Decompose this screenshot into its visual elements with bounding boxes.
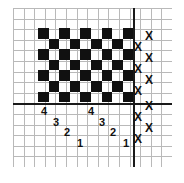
grid-line-vertical [24,8,25,167]
checker-square-empty [59,81,70,92]
checker-square-filled [123,49,134,60]
checker-square-filled [123,28,134,39]
checker-square-empty [70,28,81,39]
digit-label: 2 [110,127,116,138]
checker-square-filled [59,92,70,103]
grid-line-vertical [161,8,162,167]
checker-square-empty [59,60,70,71]
checker-square-empty [49,92,60,103]
grid-line-horizontal [13,8,172,9]
checker-square-empty [123,60,134,71]
checker-square-empty [80,81,91,92]
checker-square-filled [91,39,102,50]
grid-line-vertical [13,8,14,167]
grid-line-horizontal [13,146,172,147]
checker-square-filled [102,49,113,60]
checker-square-filled [102,70,113,81]
x-mark: X [145,30,153,42]
checker-square-empty [59,39,70,50]
checker-square-empty [102,81,113,92]
checker-square-filled [38,70,49,81]
checker-square-empty [112,92,123,103]
digit-label: 4 [88,106,94,117]
x-mark: X [145,122,153,134]
checker-square-filled [80,28,91,39]
checker-square-filled [59,70,70,81]
checker-square-empty [102,60,113,71]
checker-square-empty [123,81,134,92]
checker-square-filled [91,60,102,71]
checker-square-empty [112,28,123,39]
checker-square-empty [91,70,102,81]
checker-square-filled [112,60,123,71]
checker-square-empty [49,49,60,60]
checker-square-filled [102,28,113,39]
checker-square-filled [38,28,49,39]
checker-square-empty [70,49,81,60]
checker-square-filled [123,70,134,81]
digit-label: 2 [64,127,70,138]
digit-label: 3 [99,117,105,128]
grid-line-vertical [34,8,35,167]
checker-square-empty [112,49,123,60]
checker-square-filled [49,81,60,92]
checker-square-filled [80,92,91,103]
checker-square-filled [102,92,113,103]
x-mark: X [134,63,142,75]
checker-square-filled [112,81,123,92]
checker-square-empty [112,70,123,81]
checker-square-empty [91,92,102,103]
checker-square-filled [123,92,134,103]
checker-square-empty [38,60,49,71]
figure-canvas: XXXXXXXXXX 43214321 [0,0,184,183]
checker-square-empty [38,81,49,92]
checker-square-filled [38,92,49,103]
checker-square-empty [70,70,81,81]
checker-square-filled [80,70,91,81]
checker-square-empty [49,28,60,39]
grid-line-horizontal [13,135,172,136]
x-mark: X [145,74,153,86]
digit-label: 3 [53,117,59,128]
checker-square-filled [112,39,123,50]
digit-label: 1 [77,138,83,149]
checker-square-empty [49,70,60,81]
x-mark: X [134,111,142,123]
digit-label: 4 [41,106,47,117]
checker-square-filled [38,49,49,60]
checker-square-filled [70,39,81,50]
x-mark: X [134,41,142,53]
checker-square-filled [91,81,102,92]
checker-square-empty [102,39,113,50]
checker-square-filled [80,49,91,60]
checker-square-filled [70,60,81,71]
checker-square-empty [80,39,91,50]
checker-square-empty [91,28,102,39]
checker-square-empty [70,92,81,103]
digit-label: 1 [123,138,129,149]
x-mark: X [145,100,153,112]
x-mark: X [134,133,142,145]
checker-square-empty [91,49,102,60]
checker-square-filled [49,60,60,71]
checker-square-filled [49,39,60,50]
grid-line-horizontal [13,19,172,20]
grid-line-horizontal [13,156,172,157]
checker-square-empty [123,39,134,50]
checker-square-empty [38,39,49,50]
checkerboard-region [38,28,133,102]
checker-square-empty [80,60,91,71]
checker-square-filled [59,49,70,60]
x-mark: X [134,85,142,97]
checker-square-filled [59,28,70,39]
x-mark: X [145,52,153,64]
checker-square-filled [70,81,81,92]
